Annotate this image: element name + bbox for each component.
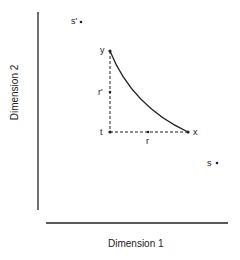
midpoint-r	[147, 131, 150, 134]
point-x	[186, 130, 189, 133]
label-r: r	[146, 137, 149, 146]
label-s: s	[207, 159, 212, 168]
point-t	[108, 130, 111, 133]
y-axis-title: Dimension 2	[9, 63, 20, 123]
x-axis-title: Dimension 1	[108, 238, 164, 249]
label-y: y	[100, 46, 105, 55]
point-s	[216, 162, 219, 165]
midpoint-r-prime	[109, 91, 112, 94]
curve-y-to-x	[110, 51, 188, 132]
label-t: t	[100, 128, 103, 137]
label-r-prime: r'	[98, 88, 103, 97]
point-s-prime	[80, 21, 83, 24]
label-s-prime: s'	[71, 17, 77, 26]
label-x: x	[193, 128, 198, 137]
point-y	[108, 49, 111, 52]
diagram-canvas	[0, 0, 240, 260]
